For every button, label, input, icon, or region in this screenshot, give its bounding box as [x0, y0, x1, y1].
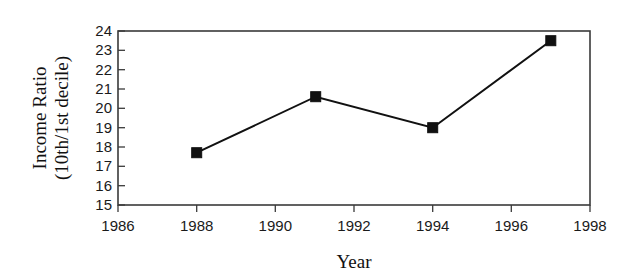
y-axis-title-line1: Income Ratio — [29, 67, 50, 170]
data-point-marker — [428, 123, 438, 133]
x-tick-label: 1996 — [495, 217, 528, 234]
x-tick-label: 1998 — [573, 217, 606, 234]
line-chart: 15 16 17 18 19 20 21 22 23 24 — [0, 0, 633, 277]
y-tick-label: 22 — [95, 61, 112, 78]
y-tick-label: 18 — [95, 138, 112, 155]
data-point-marker — [546, 36, 556, 46]
y-tick-label: 21 — [95, 80, 112, 97]
y-tick-label: 17 — [95, 157, 112, 174]
x-tick-label: 1988 — [180, 217, 213, 234]
x-tick-label: 1990 — [259, 217, 292, 234]
y-tick-label: 24 — [95, 22, 112, 39]
y-tick-label: 15 — [95, 196, 112, 213]
x-tick-label: 1992 — [337, 217, 370, 234]
y-tick-label: 19 — [95, 119, 112, 136]
chart-page: 15 16 17 18 19 20 21 22 23 24 — [0, 0, 633, 277]
y-tick-label: 16 — [95, 177, 112, 194]
data-point-marker — [311, 92, 321, 102]
x-axis-title: Year — [336, 251, 372, 272]
y-tick-label: 20 — [95, 99, 112, 116]
y-axis-title-line2: (10th/1st decile) — [51, 56, 73, 180]
y-axis-title: Income Ratio (10th/1st decile) — [29, 56, 73, 180]
data-point-marker — [192, 148, 202, 158]
y-tick-label: 23 — [95, 41, 112, 58]
x-tick-label: 1994 — [416, 217, 449, 234]
x-tick-label: 1986 — [101, 217, 134, 234]
